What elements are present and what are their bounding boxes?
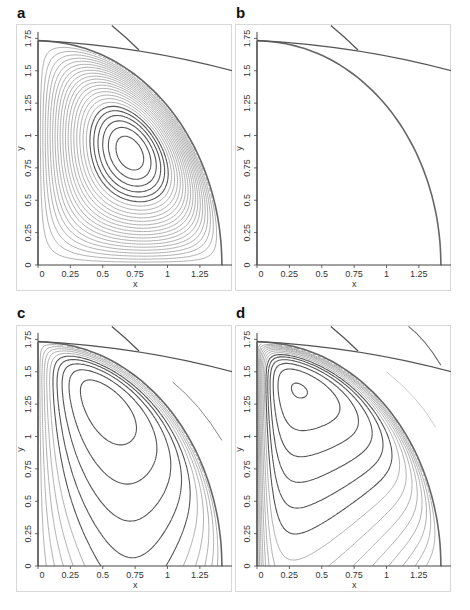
steep-curve: [112, 326, 139, 351]
y-tick-label: 0.5: [23, 194, 33, 207]
y-axis-label: y: [16, 447, 25, 452]
y-tick-label: 0: [23, 262, 33, 267]
contour-line: [47, 351, 204, 566]
y-tick-label: 0.5: [23, 495, 33, 508]
contour-line: [80, 380, 136, 445]
steep-curve: [331, 326, 358, 351]
y-tick-label: 1.75: [242, 331, 252, 349]
x-axis-label: x: [352, 580, 357, 590]
x-axis-label: x: [133, 580, 138, 590]
contour-line: [50, 61, 205, 250]
y-tick-label: 0: [23, 563, 33, 568]
x-tick-label: 1: [165, 570, 170, 580]
x-tick-label: 0.25: [62, 269, 80, 279]
x-tick-label: 0.25: [281, 269, 299, 279]
contour-line: [50, 353, 198, 566]
panel-label-b: b: [236, 4, 245, 21]
y-tick-label: 1.25: [23, 395, 33, 413]
panel-label-c: c: [17, 304, 25, 321]
y-tick-label: 1.5: [23, 365, 33, 378]
y-tick-label: 0.75: [23, 460, 33, 478]
domain-boundary: [257, 41, 441, 265]
contour-line: [273, 363, 358, 456]
y-tick-label: 1: [23, 434, 33, 439]
contour-line: [292, 383, 308, 398]
contour-line: [43, 51, 214, 259]
x-tick-label: 0.75: [345, 269, 363, 279]
x-tick-label: 0: [258, 570, 263, 580]
y-tick-label: 1: [23, 133, 33, 138]
x-tick-label: 0.75: [126, 570, 144, 580]
x-tick-label: 1.25: [410, 269, 428, 279]
secondary-curve: [409, 326, 441, 365]
y-tick-label: 0.75: [242, 460, 252, 478]
panel-label-d: d: [236, 304, 245, 321]
y-axis-label: y: [16, 146, 25, 151]
x-tick-label: 0.25: [62, 570, 80, 580]
contour-line: [57, 360, 182, 558]
y-tick-label: 1.25: [242, 94, 252, 112]
upper-curve: [257, 40, 451, 70]
y-tick-label: 0.75: [242, 159, 252, 177]
contour-line: [40, 345, 218, 566]
x-tick-label: 1.25: [191, 269, 209, 279]
y-tick-label: 1: [242, 133, 252, 138]
x-tick-label: 0: [258, 269, 263, 279]
y-tick-label: 0.5: [242, 495, 252, 508]
x-tick-label: 0.75: [345, 570, 363, 580]
x-tick-label: 1.25: [410, 570, 428, 580]
y-tick-label: 0.25: [242, 224, 252, 242]
y-tick-label: 1: [242, 434, 252, 439]
x-tick-label: 0.5: [315, 269, 328, 279]
y-tick-label: 1.5: [242, 365, 252, 378]
steep-curve: [331, 25, 358, 50]
x-tick-label: 0.25: [281, 570, 299, 580]
y-tick-label: 1.75: [23, 331, 33, 349]
x-tick-label: 0: [39, 269, 44, 279]
chart-panel-b: 00.250.50.7511.2500.250.50.7511.251.51.7…: [235, 24, 451, 291]
y-tick-label: 0.25: [242, 525, 252, 543]
chart-panel-d: 00.250.50.7511.2500.250.50.7511.251.51.7…: [235, 325, 451, 592]
y-axis-label: y: [235, 146, 244, 151]
contour-line: [268, 357, 383, 508]
y-tick-label: 1.75: [23, 30, 33, 48]
x-tick-label: 0.5: [96, 570, 109, 580]
y-tick-label: 0: [242, 262, 252, 267]
contour-line: [108, 127, 151, 179]
y-tick-label: 0.25: [23, 224, 33, 242]
x-axis-label: x: [133, 279, 138, 289]
x-tick-label: 0.75: [126, 269, 144, 279]
y-tick-label: 1.5: [242, 64, 252, 77]
y-tick-label: 0.25: [23, 525, 33, 543]
x-tick-label: 0.5: [315, 570, 328, 580]
y-tick-label: 1.25: [23, 94, 33, 112]
y-tick-label: 1.5: [23, 64, 33, 77]
x-tick-label: 0.5: [96, 269, 109, 279]
y-tick-label: 0: [242, 563, 252, 568]
contour-line: [116, 136, 144, 170]
contour-line: [261, 348, 417, 566]
contour-line: [278, 369, 340, 431]
steep-curve: [112, 25, 139, 50]
x-tick-label: 1: [384, 570, 389, 580]
x-tick-label: 0: [39, 570, 44, 580]
contour-line: [258, 345, 430, 567]
x-tick-label: 1.25: [191, 570, 209, 580]
chart-panel-c: 00.250.50.7511.2500.250.50.7511.251.51.7…: [16, 325, 232, 592]
y-tick-label: 1.75: [242, 30, 252, 48]
contour-line: [62, 364, 171, 521]
x-tick-label: 1: [165, 269, 170, 279]
x-tick-label: 1: [384, 269, 389, 279]
y-tick-label: 0.75: [23, 159, 33, 177]
y-tick-label: 0.5: [242, 194, 252, 207]
x-axis-label: x: [352, 279, 357, 289]
y-axis-label: y: [235, 447, 244, 452]
chart-panel-a: 00.250.50.7511.2500.250.50.7511.251.51.7…: [16, 24, 232, 291]
panel-label-a: a: [17, 4, 25, 21]
y-tick-label: 1.25: [242, 395, 252, 413]
